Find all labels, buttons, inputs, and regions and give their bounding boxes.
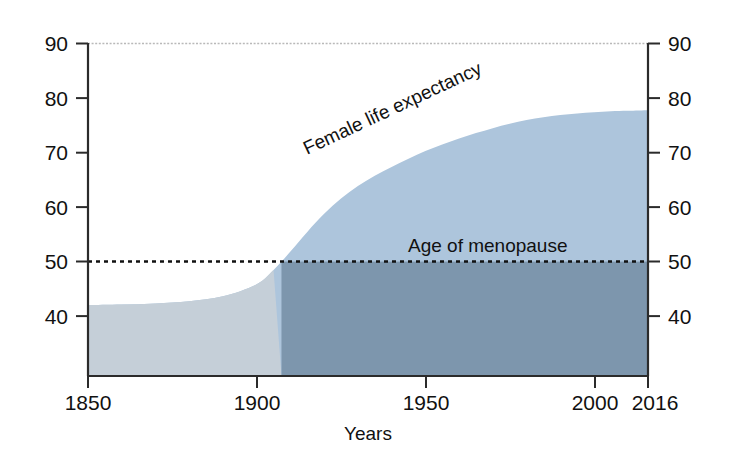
x-tick-2000: 2000 — [572, 391, 619, 414]
x-axis-title: Years — [344, 423, 392, 444]
y-tick-right-70: 70 — [668, 141, 691, 164]
y-tick-left-90: 90 — [45, 32, 68, 55]
chart-figure: 90 80 70 60 50 40 90 80 70 60 50 40 1850… — [0, 0, 735, 452]
y-tick-left-50: 50 — [45, 250, 68, 273]
x-tick-1850: 1850 — [65, 391, 112, 414]
x-tick-1950: 1950 — [403, 391, 450, 414]
y-tick-left-60: 60 — [45, 196, 68, 219]
y-tick-left-40: 40 — [45, 305, 68, 328]
y-tick-left-80: 80 — [45, 87, 68, 110]
x-tick-1900: 1900 — [234, 391, 281, 414]
life-expectancy-area-chart: 90 80 70 60 50 40 90 80 70 60 50 40 1850… — [0, 0, 735, 452]
y-tick-left-70: 70 — [45, 141, 68, 164]
y-tick-right-80: 80 — [668, 87, 691, 110]
y-tick-right-50: 50 — [668, 250, 691, 273]
area-below-threshold-late — [281, 261, 648, 376]
y-tick-right-60: 60 — [668, 196, 691, 219]
y-tick-right-40: 40 — [668, 305, 691, 328]
y-tick-right-90: 90 — [668, 32, 691, 55]
x-tick-2016: 2016 — [632, 391, 679, 414]
age-of-menopause-label: Age of menopause — [408, 235, 568, 256]
